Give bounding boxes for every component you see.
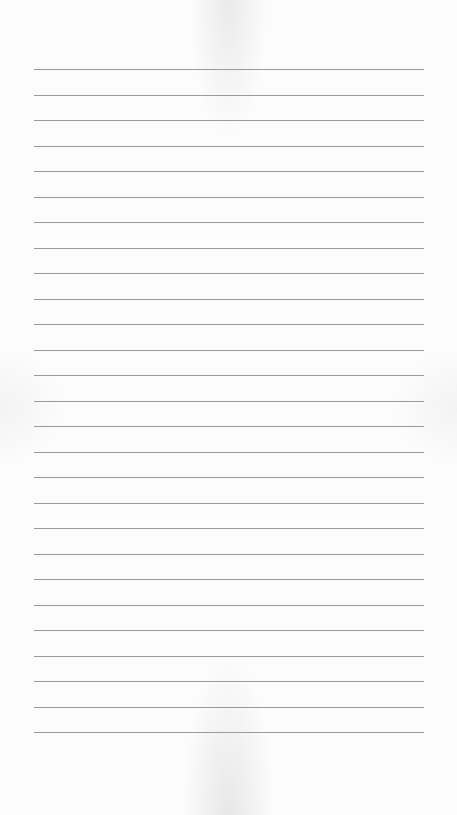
ruled-line <box>34 452 424 453</box>
ruled-line <box>34 171 424 172</box>
ruled-line <box>34 375 424 376</box>
ruled-line <box>34 630 424 631</box>
ruled-line <box>34 299 424 300</box>
ruled-line <box>34 95 424 96</box>
ruled-line <box>34 350 424 351</box>
ruled-line <box>34 426 424 427</box>
lined-paper-sheet <box>0 0 457 815</box>
ruled-line <box>34 579 424 580</box>
ruled-line <box>34 605 424 606</box>
ruled-line <box>34 528 424 529</box>
ruled-line <box>34 681 424 682</box>
ruled-line <box>34 503 424 504</box>
ruled-line <box>34 401 424 402</box>
ruled-line <box>34 197 424 198</box>
ruled-line <box>34 69 424 70</box>
ruled-line <box>34 656 424 657</box>
ruled-line <box>34 707 424 708</box>
ruled-line <box>34 273 424 274</box>
ruled-line <box>34 120 424 121</box>
ruled-line <box>34 324 424 325</box>
ruled-line <box>34 732 424 733</box>
ruled-line <box>34 248 424 249</box>
ruled-line <box>34 146 424 147</box>
ruled-line <box>34 477 424 478</box>
ruled-line <box>34 222 424 223</box>
ruled-line <box>34 554 424 555</box>
